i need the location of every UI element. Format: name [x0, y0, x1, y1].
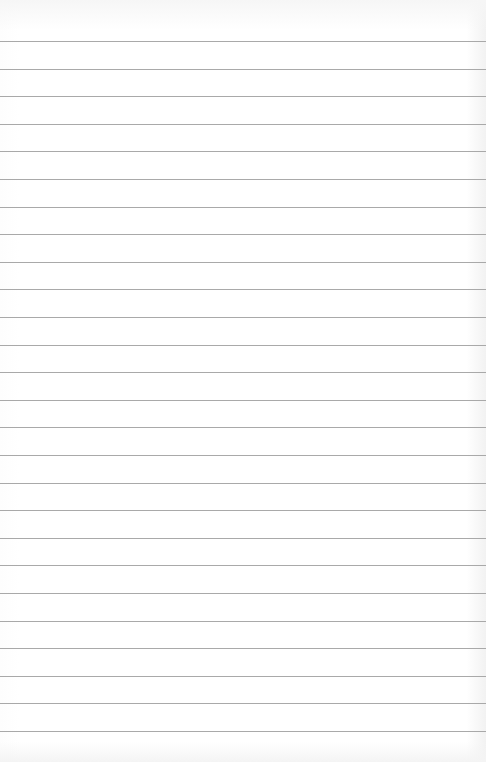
ruled-line — [0, 289, 486, 290]
ruled-line — [0, 510, 486, 511]
ruled-line — [0, 124, 486, 125]
ruled-line — [0, 207, 486, 208]
ruled-line — [0, 69, 486, 70]
ruled-line — [0, 345, 486, 346]
ruled-line — [0, 41, 486, 42]
ruled-line — [0, 538, 486, 539]
ruled-line — [0, 400, 486, 401]
ruled-line — [0, 703, 486, 704]
lined-paper-sheet — [0, 0, 486, 762]
ruled-line — [0, 455, 486, 456]
ruled-line — [0, 621, 486, 622]
ruled-line — [0, 262, 486, 263]
ruled-line — [0, 427, 486, 428]
ruled-line — [0, 565, 486, 566]
ruled-line — [0, 96, 486, 97]
ruled-line — [0, 234, 486, 235]
ruled-line — [0, 648, 486, 649]
ruled-line — [0, 483, 486, 484]
ruled-line — [0, 676, 486, 677]
ruled-line — [0, 179, 486, 180]
ruled-line — [0, 593, 486, 594]
ruled-line — [0, 372, 486, 373]
ruled-line — [0, 731, 486, 732]
ruled-line — [0, 317, 486, 318]
ruled-line — [0, 151, 486, 152]
